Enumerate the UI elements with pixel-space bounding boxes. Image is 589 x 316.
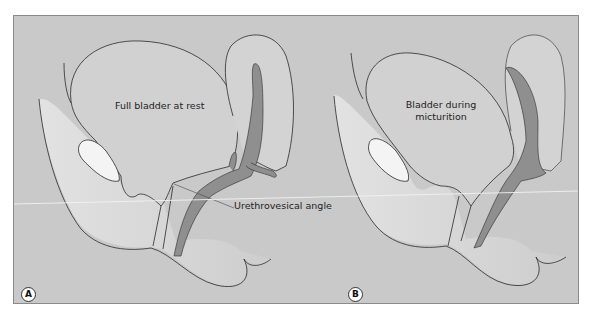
- anatomy-figure: Full bladder at rest Urethrovesical angl…: [13, 15, 579, 304]
- panel-b-label-line1: Bladder during: [401, 99, 481, 111]
- panel-b-badge: B: [348, 287, 363, 302]
- panel-a-drawing: [39, 35, 294, 287]
- panel-a-badge: A: [21, 287, 36, 302]
- panel-b-bladder-label: Bladder during micturition: [401, 99, 481, 123]
- pelvic-anatomy-drawing: [14, 16, 579, 304]
- panel-b-drawing: [334, 35, 566, 286]
- urethrovesical-angle-label: Urethrovesical angle: [234, 200, 332, 211]
- panel-b-label-line2: micturition: [401, 111, 481, 123]
- panel-a-bladder-label: Full bladder at rest: [115, 100, 204, 111]
